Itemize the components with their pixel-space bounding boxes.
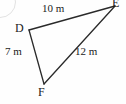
side-df-line bbox=[29, 30, 44, 84]
triangle-diagram: D E F 10 m 12 m 7 m bbox=[0, 0, 126, 104]
side-length-label-de: 10 m bbox=[42, 3, 64, 14]
vertex-label-f: F bbox=[38, 86, 45, 98]
vertex-label-e: E bbox=[112, 0, 119, 9]
side-length-label-df: 7 m bbox=[5, 46, 22, 57]
vertex-label-d: D bbox=[15, 22, 24, 34]
side-length-label-fe: 12 m bbox=[75, 46, 97, 57]
